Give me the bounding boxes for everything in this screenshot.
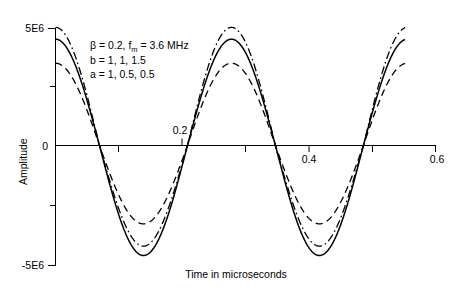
chart-figure: 5E6 0 -5E6 0.2 0.4 0.6 Amplitude Time in… — [0, 0, 457, 294]
annotation-beta-fm-pre: β = 0.2, f — [90, 39, 131, 51]
annotation-line-2: b = 1, 1, 1.5 — [90, 54, 146, 66]
y-tick-label-zero: 0 — [42, 140, 48, 152]
annotation-beta-fm-post: = 3.6 MHz — [138, 39, 189, 51]
parameter-annotation: β = 0.2, fm = 3.6 MHz b = 1, 1, 1.5 a = … — [90, 39, 189, 80]
x-axis-title: Time in microseconds — [185, 268, 287, 280]
y-tick-label-top: 5E6 — [25, 22, 44, 34]
waveform-curve-dashed — [56, 63, 406, 224]
y-axis-title: Amplitude — [17, 138, 29, 185]
x-tick-label-06: 0.6 — [430, 153, 445, 165]
y-tick-label-bottom: -5E6 — [22, 259, 44, 271]
waveform-chart: 5E6 0 -5E6 0.2 0.4 0.6 Amplitude Time in… — [0, 0, 457, 294]
x-tick-label-02: 0.2 — [173, 124, 188, 136]
annotation-line-3: a = 1, 0.5, 0.5 — [90, 68, 155, 80]
x-tick-label-04: 0.4 — [302, 153, 317, 165]
annotation-line-1: β = 0.2, fm = 3.6 MHz — [90, 39, 189, 54]
